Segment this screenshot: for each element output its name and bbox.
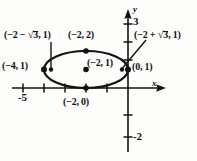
sqrt-glyph-right: √3 bbox=[158, 30, 169, 40]
point-label-top-vertex: (−2, 2) bbox=[68, 30, 94, 40]
sqrt-glyph-left: √3 bbox=[28, 30, 39, 40]
right-focus-suffix: , 1) bbox=[168, 29, 181, 40]
y-tick-label-neg2: -2 bbox=[133, 131, 142, 142]
point-top-vertex bbox=[83, 48, 89, 54]
left-focus-prefix: (−2 − bbox=[4, 29, 28, 40]
y-axis-label: y bbox=[133, 5, 137, 14]
x-axis-label: x bbox=[152, 79, 156, 88]
right-focus-prefix: (−2 + bbox=[134, 29, 158, 40]
graph-canvas bbox=[0, 0, 197, 161]
y-tick-label-3: 3 bbox=[133, 16, 138, 27]
point-right-focus bbox=[120, 67, 124, 71]
ellipse-figure: (−2 − √3, 1) (−2, 2) (−2 + √3, 1) (−4, 1… bbox=[0, 0, 197, 161]
point-left-vertex bbox=[41, 67, 47, 73]
point-label-left-vertex: (−4, 1) bbox=[2, 61, 28, 71]
point-label-left-focus: (−2 − √3, 1) bbox=[4, 30, 51, 40]
point-left-focus bbox=[49, 67, 53, 71]
point-label-center: (−2, 1) bbox=[87, 58, 113, 68]
x-tick-label-neg5: -5 bbox=[18, 92, 27, 103]
y-axis bbox=[124, 9, 131, 152]
left-focus-suffix: , 1) bbox=[38, 29, 51, 40]
point-label-right-vertex: (0, 1) bbox=[132, 62, 152, 72]
point-bottom-vertex bbox=[83, 85, 89, 91]
point-label-right-focus: (−2 + √3, 1) bbox=[134, 30, 181, 40]
point-right-vertex bbox=[125, 67, 131, 73]
point-label-bottom-vertex: (−2, 0) bbox=[63, 97, 89, 107]
